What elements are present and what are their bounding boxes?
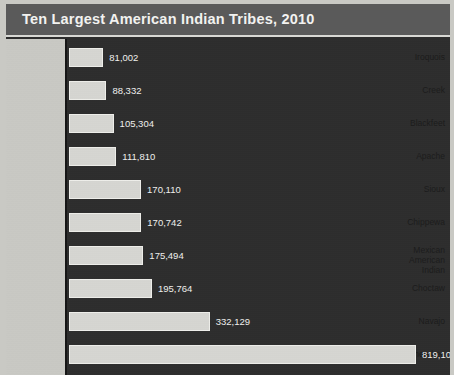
bar-track: 111,810 xyxy=(69,140,450,173)
bar-value-label: 332,129 xyxy=(216,316,250,327)
chart-title-bar: Ten Largest American Indian Tribes, 2010 xyxy=(6,4,450,37)
bar-value-label: 195,764 xyxy=(158,283,192,294)
plot-area: Iroquois81,002Creek88,332Blackfeet105,30… xyxy=(6,39,450,375)
bar-row: Chippewa170,742 xyxy=(6,206,450,239)
bar-value-label: 111,810 xyxy=(122,151,155,162)
bar-track: 175,494 xyxy=(69,239,450,272)
bar xyxy=(69,246,143,265)
bar xyxy=(69,345,416,364)
bar-track: 88,332 xyxy=(69,74,450,107)
bar-row: Creek88,332 xyxy=(6,74,450,107)
bar xyxy=(69,213,141,232)
bar xyxy=(69,147,116,166)
bar xyxy=(69,312,210,331)
chart-inner-frame: Ten Largest American Indian Tribes, 2010… xyxy=(6,4,450,375)
bar xyxy=(69,48,103,67)
bar-track: 170,110 xyxy=(69,173,450,206)
bar-row: Choctaw195,764 xyxy=(6,272,450,305)
bar-track: 332,129 xyxy=(69,305,450,338)
bar-value-label: 105,304 xyxy=(120,118,154,129)
bar-row: Cherokee819,105 xyxy=(6,338,450,371)
bar-value-label: 88,332 xyxy=(112,85,141,96)
bar-row: Apache111,810 xyxy=(6,140,450,173)
bar-value-label: 81,002 xyxy=(109,52,138,63)
bar-row: Iroquois81,002 xyxy=(6,41,450,74)
bar-value-label: 819,105 xyxy=(422,349,450,360)
bar-row: Navajo332,129 xyxy=(6,305,450,338)
bar-row: Sioux170,110 xyxy=(6,173,450,206)
bar-value-label: 170,110 xyxy=(147,184,181,195)
bar xyxy=(69,114,114,133)
chart-title: Ten Largest American Indian Tribes, 2010 xyxy=(22,11,314,27)
bar-track: 170,742 xyxy=(69,206,450,239)
bar-row: Mexican American Indian175,494 xyxy=(6,239,450,272)
bar xyxy=(69,279,152,298)
bar-value-label: 170,742 xyxy=(147,217,181,228)
bar xyxy=(69,180,141,199)
bar-track: 81,002 xyxy=(69,41,450,74)
chart-container: Ten Largest American Indian Tribes, 2010… xyxy=(0,0,454,375)
bar-row: Blackfeet105,304 xyxy=(6,107,450,140)
bar xyxy=(69,81,106,100)
bar-track: 819,105 xyxy=(69,338,450,371)
bar-track: 195,764 xyxy=(69,272,450,305)
bar-track: 105,304 xyxy=(69,107,450,140)
bar-value-label: 175,494 xyxy=(149,250,183,261)
